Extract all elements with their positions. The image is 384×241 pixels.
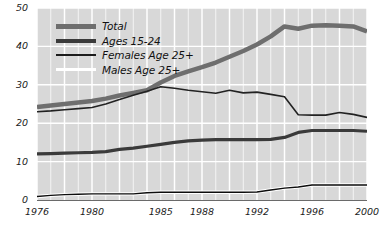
legend-swatch-total <box>56 24 96 29</box>
x-axis-tick-label: 1985 <box>141 206 181 217</box>
x-axis-tick-label: 1996 <box>292 206 332 217</box>
x-axis-tick-label: 1980 <box>72 206 112 217</box>
legend-swatch-males-age-25 <box>56 68 96 70</box>
y-axis-tick-label: 10 <box>2 156 28 167</box>
y-axis-tick-label: 30 <box>2 79 28 90</box>
y-axis-tick-label: 50 <box>2 2 28 13</box>
x-axis-tick-label: 1988 <box>182 206 222 217</box>
legend-label-females-age-25: Females Age 25+ <box>102 49 194 61</box>
y-axis-tick-label: 20 <box>2 117 28 128</box>
y-axis-tick-label: 40 <box>2 40 28 51</box>
clipped-title-fragment <box>70 0 190 4</box>
x-axis-tick-label: 1976 <box>17 206 57 217</box>
y-axis-tick-label: 0 <box>2 194 28 205</box>
x-axis-tick-label: 2000 <box>347 206 384 217</box>
x-axis-tick-label: 1992 <box>237 206 277 217</box>
legend-label-ages-15-24: Ages 15-24 <box>102 35 161 47</box>
legend-label-males-age-25: Males Age 25+ <box>102 64 180 76</box>
legend-label-total: Total <box>102 20 127 32</box>
legend-swatch-females-age-25 <box>56 54 96 56</box>
legend-swatch-ages-15-24 <box>56 39 96 43</box>
